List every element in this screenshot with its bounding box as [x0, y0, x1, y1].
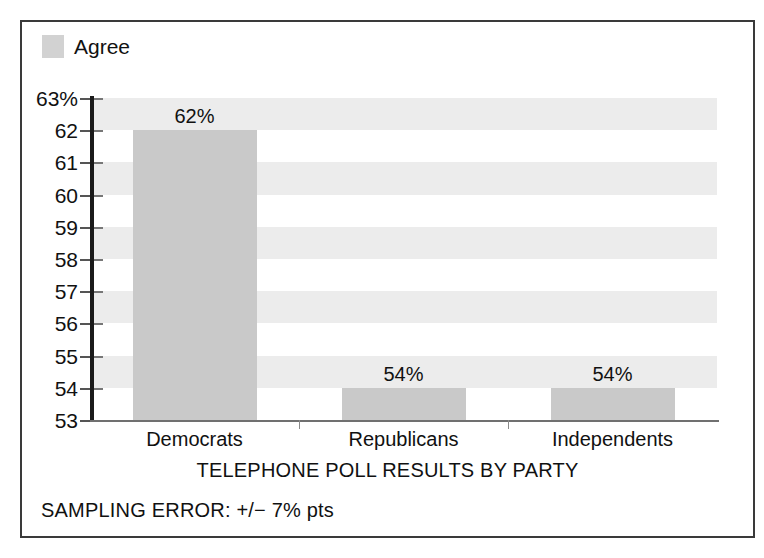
- y-axis-tick: [80, 388, 90, 390]
- y-axis-tick-inner: [94, 227, 103, 229]
- y-axis-tick-label: 58: [55, 249, 78, 270]
- y-axis-tick-label: 63%: [36, 88, 78, 109]
- y-axis-tick: [80, 98, 90, 100]
- y-axis-tick-label: 59: [55, 216, 78, 237]
- y-axis-tick-label: 57: [55, 281, 78, 302]
- y-axis-tick-inner: [94, 291, 103, 293]
- y-axis-tick-inner: [94, 162, 103, 164]
- legend-label-agree: Agree: [74, 36, 130, 57]
- y-axis-tick-label: 56: [55, 313, 78, 334]
- sampling-error-note: SAMPLING ERROR: +/− 7% pts: [41, 499, 334, 522]
- legend-swatch-icon: [42, 35, 64, 58]
- x-axis-category-label: Republicans: [348, 428, 458, 450]
- x-axis-tick: [508, 420, 509, 429]
- y-axis-tick: [80, 356, 90, 358]
- x-axis-line: [90, 420, 719, 422]
- bar[interactable]: [133, 130, 257, 420]
- y-axis-tick-inner: [94, 98, 103, 100]
- bar[interactable]: [551, 388, 675, 420]
- y-axis-tick-label: 54: [55, 377, 78, 398]
- y-axis-tick-inner: [94, 323, 103, 325]
- y-axis-tick: [80, 259, 90, 261]
- x-axis-category-label: Democrats: [146, 428, 243, 450]
- plot-area: 62%54%54%: [90, 98, 717, 420]
- y-axis-tick-inner: [94, 259, 103, 261]
- y-axis-tick-inner: [94, 130, 103, 132]
- y-axis-tick: [80, 420, 90, 422]
- y-axis-tick: [80, 195, 90, 197]
- y-axis-line: [90, 96, 94, 420]
- y-axis-tick-label: 62: [55, 120, 78, 141]
- chart-legend: Agree: [42, 35, 130, 58]
- bar-value-label: 62%: [174, 106, 214, 126]
- y-axis-tick: [80, 162, 90, 164]
- bar-value-label: 54%: [383, 364, 423, 384]
- y-axis-tick-label: 55: [55, 345, 78, 366]
- y-axis-tick-inner: [94, 388, 103, 390]
- y-axis-tick-label: 53: [55, 410, 78, 431]
- bar[interactable]: [342, 388, 466, 420]
- y-axis-tick: [80, 227, 90, 229]
- y-axis-labels: 63%62616059585756555453: [22, 98, 84, 420]
- y-axis-tick-label: 60: [55, 184, 78, 205]
- y-axis-tick-inner: [94, 195, 103, 197]
- x-axis-tick: [299, 420, 300, 429]
- x-axis-title: TELEPHONE POLL RESULTS BY PARTY: [22, 459, 753, 482]
- chart-frame: Agree 63%62616059585756555453 62%54%54% …: [20, 20, 755, 538]
- y-axis-tick-inner: [94, 356, 103, 358]
- y-axis-tick: [80, 323, 90, 325]
- y-axis-tick: [80, 291, 90, 293]
- x-axis-category-label: Independents: [552, 428, 673, 450]
- y-axis-tick-label: 61: [55, 152, 78, 173]
- y-axis-tick: [80, 130, 90, 132]
- bar-value-label: 54%: [592, 364, 632, 384]
